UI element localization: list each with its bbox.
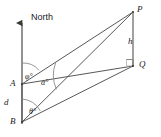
segment-BP xyxy=(22,12,133,122)
right-angle-marker-Q-fill xyxy=(127,60,134,67)
segment-AP xyxy=(22,12,133,84)
angle-arc-phi xyxy=(22,63,39,70)
geometry-diagram: North A B P Q d h φ° α° θ° xyxy=(0,0,161,137)
north-label: North xyxy=(31,13,53,22)
vertex-Q xyxy=(132,65,134,67)
angle-arc-alpha xyxy=(53,63,56,90)
segment-AQ xyxy=(22,66,133,84)
diagram-canvas xyxy=(0,0,161,137)
vertex-B xyxy=(21,121,23,123)
angle-label-alpha: α° xyxy=(41,79,48,87)
point-label-Q: Q xyxy=(139,60,146,69)
right-angle-marker-Q xyxy=(127,60,134,67)
point-label-B: B xyxy=(10,117,16,126)
angle-label-theta: θ° xyxy=(29,108,36,116)
vertex-P xyxy=(132,11,134,13)
segment-label-h: h xyxy=(128,37,133,46)
vertex-A xyxy=(21,83,23,85)
segment-BQ xyxy=(22,66,133,122)
angle-label-phi: φ° xyxy=(25,73,33,81)
point-label-P: P xyxy=(137,5,143,14)
segment-label-d: d xyxy=(4,98,9,107)
point-label-A: A xyxy=(10,79,16,88)
